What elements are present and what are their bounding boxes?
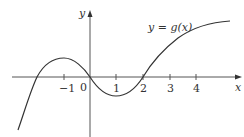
curve-label: y = g(x) (147, 21, 192, 34)
x-tick-label: 3 (167, 82, 174, 95)
x-tick-label: 4 (193, 82, 200, 95)
x-tick-label: −1 (59, 82, 75, 95)
y-axis-label: y (78, 7, 86, 20)
curve-g (18, 21, 230, 130)
x-axis-arrow-icon (235, 75, 242, 80)
y-axis-arrow-icon (88, 10, 93, 17)
x-tick-label: 2 (140, 82, 147, 95)
x-axis-label: x (235, 81, 242, 94)
origin-label: 0 (80, 81, 87, 94)
graph-of-g: −1 0 1 2 3 4 x y y = g(x) (0, 0, 244, 137)
x-tick-label: 1 (113, 82, 120, 95)
